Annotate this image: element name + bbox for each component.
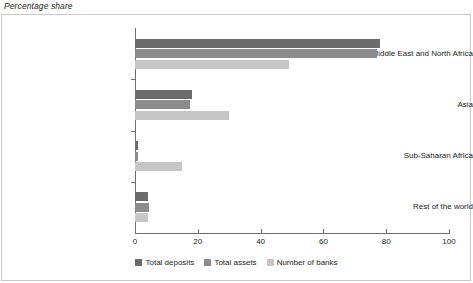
legend-swatch-deposits-icon [135,259,142,266]
x-tick-label: 100 [442,237,455,246]
y-tick [131,131,136,132]
x-tick-label: 20 [193,237,202,246]
category-label: Asia [345,100,473,109]
x-tick-label: 40 [256,237,265,246]
bar-assets [135,100,190,109]
category-label: Rest of the world [345,202,473,211]
bar-assets [135,152,138,161]
bar-banks [135,60,289,69]
x-tick [135,229,136,234]
y-tick [131,182,136,183]
x-tick [261,229,262,234]
x-tick [198,229,199,234]
x-tick-label: 60 [319,237,328,246]
bar-banks [135,213,148,222]
legend-swatch-assets-icon [204,259,211,266]
bar-deposits [135,39,380,48]
legend-swatch-banks-icon [267,259,274,266]
y-tick [131,79,136,80]
figure-container: Percentage share 020406080100 Middle Eas… [0,0,473,283]
legend-label: Number of banks [277,258,338,267]
legend-item-assets[interactable]: Total assets [204,258,256,267]
legend-item-deposits[interactable]: Total deposits [135,258,194,267]
legend-label: Total deposits [145,258,194,267]
bar-deposits [135,90,192,99]
bar-assets [135,49,377,58]
bar-banks [135,111,229,120]
category-label: Sub-Saharan Africa [345,151,473,160]
legend-item-banks[interactable]: Number of banks [267,258,338,267]
bar-banks [135,162,182,171]
chart-legend: Total depositsTotal assetsNumber of bank… [0,258,473,267]
x-tick-label: 80 [382,237,391,246]
figure-title: Percentage share [4,1,73,11]
x-axis-line [135,233,449,234]
x-tick [323,229,324,234]
x-tick [449,229,450,234]
x-tick-label: 0 [133,237,137,246]
legend-label: Total assets [214,258,256,267]
bar-deposits [135,141,138,150]
x-tick [386,229,387,234]
bar-assets [135,203,149,212]
bar-deposits [135,192,148,201]
